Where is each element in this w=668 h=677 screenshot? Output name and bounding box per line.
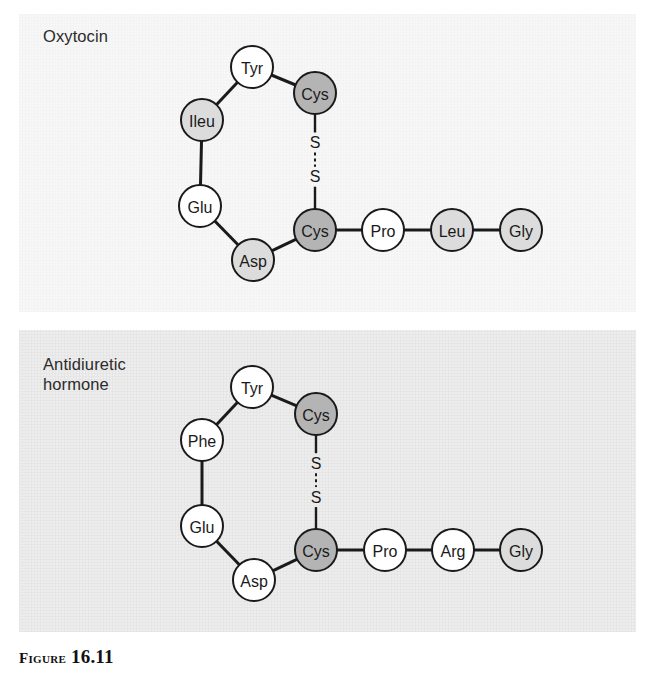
- amino-acid-label: Ileu: [189, 113, 215, 130]
- figure-caption-number: 16.11: [66, 646, 114, 667]
- amino-acid-node-gly[interactable]: Gly: [500, 209, 542, 251]
- sulfur-label-upper: S: [310, 134, 321, 151]
- sulfur-label-upper: S: [311, 455, 322, 472]
- amino-acid-node-pro[interactable]: Pro: [364, 529, 406, 571]
- peptide-structure-diagram: SSTyrCysIleuGluAspCysProLeuGlySSTyrCysPh…: [0, 0, 668, 677]
- amino-acid-node-cys[interactable]: Cys: [295, 529, 337, 571]
- figure-caption-prefix: Figure: [19, 650, 66, 666]
- amino-acid-label: Asp: [240, 573, 268, 590]
- amino-acid-node-glu[interactable]: Glu: [181, 505, 223, 547]
- amino-acid-label: Gly: [509, 223, 533, 240]
- amino-acid-node-cys[interactable]: Cys: [295, 393, 337, 435]
- amino-acid-label: Glu: [190, 519, 215, 536]
- amino-acid-label: Asp: [239, 253, 267, 270]
- sulfur-label-lower: S: [311, 489, 322, 506]
- peptide-bond: [215, 401, 239, 426]
- structure-antidiuretic-hormone: SSTyrCysPheGluAspCysProArgGly: [181, 366, 542, 601]
- amino-acid-node-tyr[interactable]: Tyr: [231, 46, 273, 88]
- amino-acid-node-cys[interactable]: Cys: [294, 209, 336, 251]
- amino-acid-label: Pro: [373, 543, 398, 560]
- amino-acid-label: Leu: [439, 223, 466, 240]
- amino-acid-label: Tyr: [241, 60, 264, 77]
- sulfur-label-lower: S: [310, 168, 321, 185]
- amino-acid-label: Cys: [301, 223, 329, 240]
- amino-acid-node-asp[interactable]: Asp: [232, 239, 274, 281]
- amino-acid-node-cys[interactable]: Cys: [294, 72, 336, 114]
- amino-acid-node-leu[interactable]: Leu: [431, 209, 473, 251]
- structure-oxytocin: SSTyrCysIleuGluAspCysProLeuGly: [179, 46, 542, 281]
- amino-acid-node-asp[interactable]: Asp: [233, 559, 275, 601]
- amino-acid-label: Pro: [371, 223, 396, 240]
- peptide-bond: [270, 74, 298, 86]
- amino-acid-label: Phe: [188, 433, 217, 450]
- amino-acid-label: Glu: [188, 199, 213, 216]
- peptide-bond: [270, 394, 299, 406]
- amino-acid-node-glu[interactable]: Glu: [179, 185, 221, 227]
- peptide-bond: [215, 540, 241, 567]
- amino-acid-node-ileu[interactable]: Ileu: [181, 99, 223, 141]
- amino-acid-node-tyr[interactable]: Tyr: [231, 366, 273, 408]
- peptide-bond: [215, 81, 239, 106]
- peptide-bond: [213, 220, 239, 247]
- amino-acid-label: Cys: [302, 407, 330, 424]
- figure-caption: Figure 16.11: [19, 646, 114, 668]
- peptide-bond: [200, 139, 201, 187]
- figure-container: Oxytocin Antidiuretichormone SSTyrCysIle…: [0, 0, 668, 677]
- peptide-bond: [271, 558, 299, 571]
- amino-acid-label: Arg: [441, 543, 466, 560]
- amino-acid-label: Cys: [301, 86, 329, 103]
- amino-acid-node-arg[interactable]: Arg: [432, 529, 474, 571]
- amino-acid-node-gly[interactable]: Gly: [500, 529, 542, 571]
- amino-acid-label: Cys: [302, 543, 330, 560]
- amino-acid-label: Tyr: [241, 380, 264, 397]
- amino-acid-label: Gly: [509, 543, 533, 560]
- peptide-bond: [270, 238, 298, 251]
- amino-acid-node-pro[interactable]: Pro: [362, 209, 404, 251]
- amino-acid-node-phe[interactable]: Phe: [181, 419, 223, 461]
